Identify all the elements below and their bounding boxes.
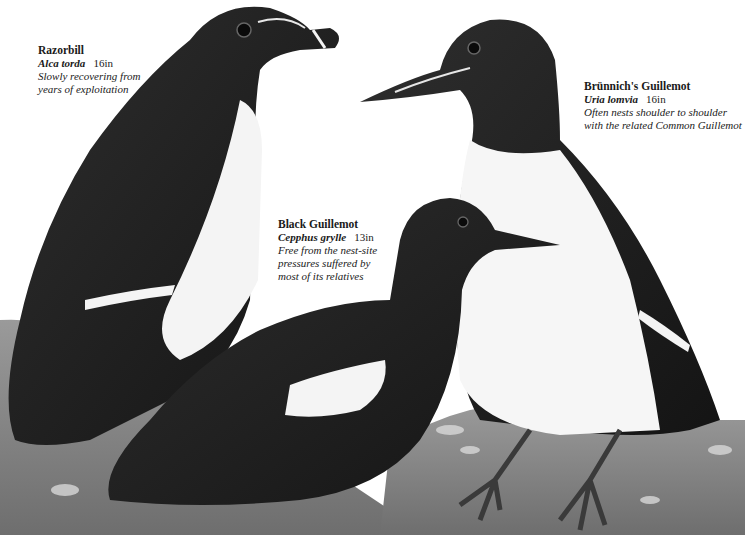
species-note-line: years of exploitation	[38, 83, 140, 96]
species-size: 16in	[646, 93, 666, 105]
bird-illustration-plate: Razorbill Alca torda16in Slowly recoveri…	[0, 0, 745, 543]
species-name: Brünnich's Guillemot	[584, 80, 742, 93]
species-note-line: Free from the nest-site	[278, 244, 377, 257]
species-size: 13in	[354, 231, 374, 243]
scientific-name: Alca torda	[38, 57, 85, 69]
species-note-line: Often nests shoulder to shoulder	[584, 106, 742, 119]
species-note-line: with the related Common Guillemot	[584, 119, 742, 132]
species-size: 16in	[93, 57, 113, 69]
species-name: Black Guillemot	[278, 218, 377, 231]
caption-black-guillemot: Black Guillemot Cepphus grylle13in Free …	[278, 218, 377, 283]
caption-razorbill: Razorbill Alca torda16in Slowly recoveri…	[38, 44, 140, 96]
species-note-line: most of its relatives	[278, 270, 377, 283]
scientific-name: Uria lomvia	[584, 93, 638, 105]
species-note-line: pressures suffered by	[278, 257, 377, 270]
caption-brunnichs-guillemot: Brünnich's Guillemot Uria lomvia16in Oft…	[584, 80, 742, 132]
species-note-line: Slowly recovering from	[38, 70, 140, 83]
scientific-name: Cepphus grylle	[278, 231, 346, 243]
species-name: Razorbill	[38, 44, 140, 57]
